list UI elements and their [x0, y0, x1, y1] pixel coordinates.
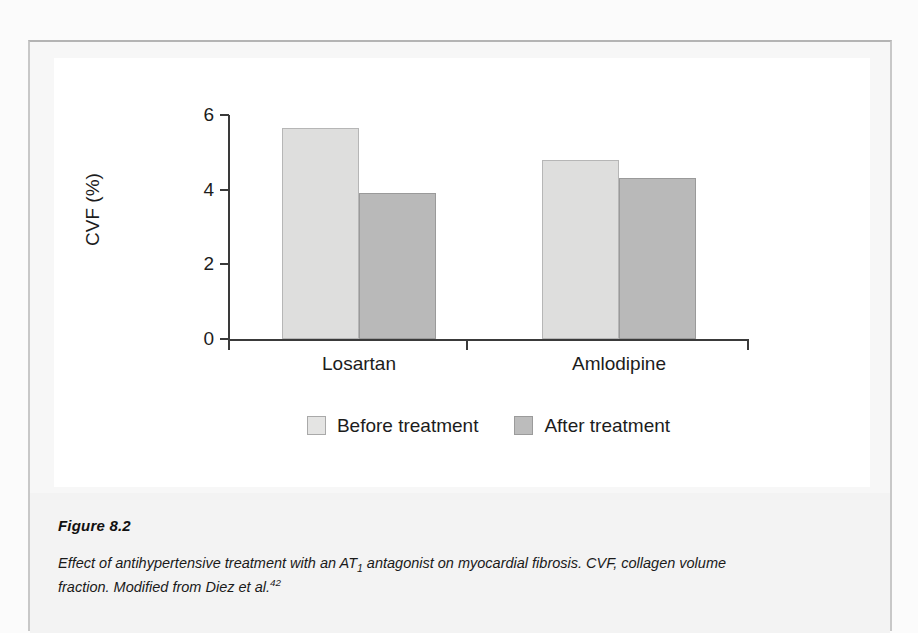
- y-axis-title: CVF (%): [83, 145, 102, 275]
- legend-item-before: Before treatment: [307, 416, 479, 435]
- bar-losartan-after: [359, 193, 436, 339]
- caption-segment-1: Effect of antihypertensive treatment wit…: [58, 555, 357, 571]
- y-axis-tick: [220, 114, 229, 116]
- legend-item-after: After treatment: [514, 416, 670, 435]
- figure-caption-area: Figure 8.2 Effect of antihypertensive tr…: [30, 493, 890, 633]
- chart-legend: Before treatmentAfter treatment: [228, 416, 749, 435]
- bar-losartan-before: [282, 128, 359, 339]
- bar-amlodipine-after: [619, 178, 696, 339]
- x-axis-tick: [466, 341, 468, 350]
- y-axis-tick-label: 4: [174, 180, 214, 199]
- figure-number: Figure 8.2: [58, 517, 131, 534]
- x-axis-category-label: Losartan: [232, 354, 486, 373]
- y-axis-line: [228, 115, 230, 340]
- legend-swatch-icon: [307, 416, 326, 435]
- legend-label: After treatment: [544, 416, 670, 435]
- x-axis-line: [228, 339, 749, 341]
- x-axis-tick: [747, 341, 749, 350]
- y-axis-tick-labels: 0246: [162, 58, 214, 358]
- y-axis-tick-label: 6: [174, 105, 214, 124]
- chart-plot-area: CVF (%) 0246 LosartanAmlodipine Before t…: [54, 58, 870, 487]
- y-axis-tick: [220, 263, 229, 265]
- y-axis-tick-label: 0: [174, 329, 214, 348]
- y-axis-tick-label: 2: [174, 254, 214, 273]
- bar-amlodipine-before: [542, 160, 619, 339]
- figure-caption-text: Effect of antihypertensive treatment wit…: [58, 553, 758, 598]
- x-axis-category-label: Amlodipine: [492, 354, 746, 373]
- figure-panel: CVF (%) 0246 LosartanAmlodipine Before t…: [28, 40, 892, 631]
- legend-label: Before treatment: [337, 416, 479, 435]
- x-axis-tick: [228, 341, 230, 350]
- bar-chart: CVF (%) 0246 LosartanAmlodipine Before t…: [54, 58, 870, 487]
- y-axis-tick: [220, 338, 229, 340]
- caption-superscript-reference: 42: [270, 577, 281, 588]
- y-axis-tick: [220, 189, 229, 191]
- legend-swatch-icon: [514, 416, 533, 435]
